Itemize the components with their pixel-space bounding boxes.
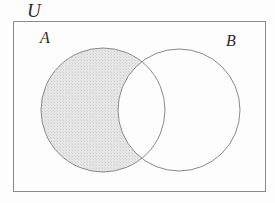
universe-label: U <box>27 1 41 20</box>
set-b-label: B <box>226 33 236 49</box>
set-a-label: A <box>40 30 50 46</box>
venn-diagram-figure: U A B <box>0 0 275 203</box>
